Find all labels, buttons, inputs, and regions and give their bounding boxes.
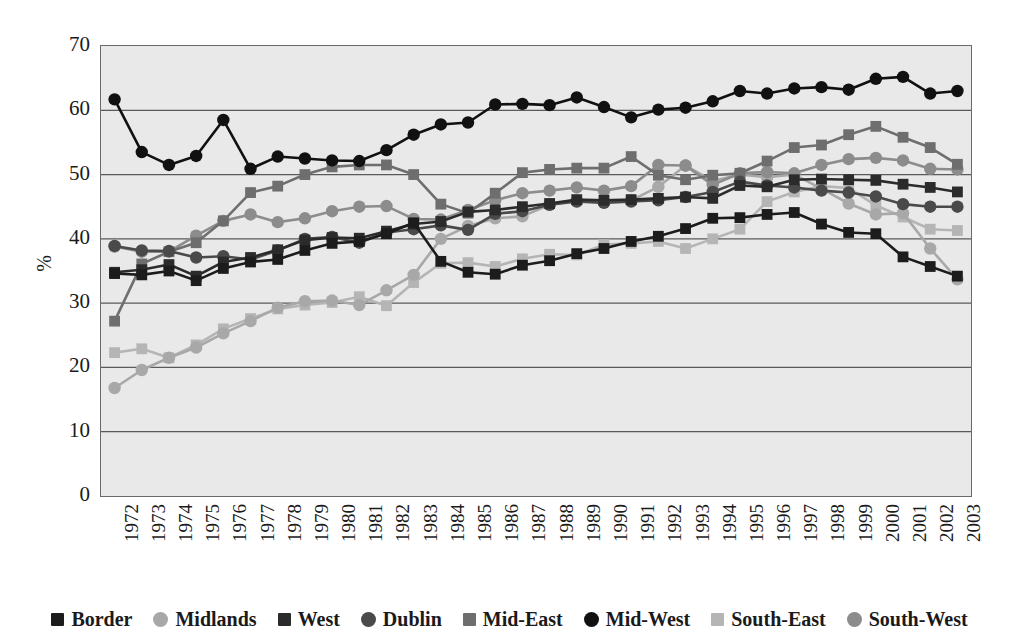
- data-point: [326, 154, 338, 166]
- plot-area: [100, 45, 972, 497]
- data-point: [244, 163, 256, 175]
- data-point: [951, 201, 963, 213]
- data-point: [108, 382, 120, 394]
- x-tick-label: 1995: [747, 504, 766, 542]
- data-point: [463, 267, 474, 278]
- legend-square-icon: [711, 613, 724, 626]
- data-point: [815, 159, 827, 171]
- data-point: [652, 159, 664, 171]
- legend-item-south-west[interactable]: South-West: [847, 609, 968, 629]
- data-point: [407, 269, 419, 281]
- data-point: [843, 174, 854, 185]
- data-point: [679, 159, 691, 171]
- data-point: [327, 238, 338, 249]
- data-point: [136, 343, 147, 354]
- legend-label: Mid-East: [483, 609, 563, 629]
- series-border: [109, 207, 963, 286]
- data-point: [543, 184, 555, 196]
- data-point: [571, 194, 582, 205]
- data-point: [898, 132, 909, 143]
- data-point: [870, 175, 881, 186]
- data-point: [272, 150, 284, 162]
- data-point: [190, 251, 202, 263]
- y-tick-label: 20: [44, 355, 90, 376]
- series-line: [115, 213, 958, 281]
- y-tick-label: 60: [44, 98, 90, 119]
- data-point: [599, 163, 610, 174]
- data-point: [435, 216, 446, 227]
- legend-square-icon: [463, 613, 476, 626]
- series-line: [115, 77, 958, 169]
- data-point: [516, 187, 528, 199]
- data-point: [218, 215, 229, 226]
- data-point: [299, 152, 311, 164]
- chart-legend: BorderMidlandsWestDublinMid-EastMid-West…: [0, 603, 1019, 635]
- data-point: [490, 269, 501, 280]
- data-point: [924, 201, 936, 213]
- x-tick-label: 2001: [910, 504, 929, 542]
- data-point: [815, 81, 827, 93]
- data-point: [245, 187, 256, 198]
- data-point: [544, 255, 555, 266]
- data-point: [408, 217, 419, 228]
- data-point: [952, 225, 963, 236]
- data-point: [380, 200, 392, 212]
- data-point: [679, 102, 691, 114]
- data-point: [816, 219, 827, 230]
- data-point: [191, 275, 202, 286]
- data-point: [517, 167, 528, 178]
- series-midlands: [108, 159, 963, 394]
- data-point: [462, 116, 474, 128]
- data-point: [653, 193, 664, 204]
- data-point: [898, 179, 909, 190]
- data-point: [163, 245, 175, 257]
- data-point: [217, 114, 229, 126]
- data-point: [354, 236, 365, 247]
- data-point: [843, 227, 854, 238]
- legend-item-midlands[interactable]: Midlands: [153, 609, 256, 629]
- data-point: [625, 111, 637, 123]
- data-point: [217, 327, 229, 339]
- data-point: [272, 244, 283, 255]
- data-point: [490, 205, 501, 216]
- data-point: [381, 228, 392, 239]
- x-tick-label: 1973: [149, 504, 168, 542]
- data-point: [108, 240, 120, 252]
- data-point: [190, 150, 202, 162]
- data-point: [761, 166, 773, 178]
- legend-circle-icon: [584, 612, 599, 627]
- data-point: [626, 236, 637, 247]
- data-point: [652, 103, 664, 115]
- legend-item-border[interactable]: Border: [51, 609, 132, 629]
- legend-item-mid-east[interactable]: Mid-East: [463, 609, 563, 629]
- data-point: [626, 194, 637, 205]
- legend-item-south-east[interactable]: South-East: [711, 609, 825, 629]
- data-point: [381, 300, 392, 311]
- x-tick-label: 1979: [312, 504, 331, 542]
- data-point: [380, 144, 392, 156]
- data-point: [299, 295, 311, 307]
- data-point: [897, 154, 909, 166]
- data-point: [842, 153, 854, 165]
- data-point: [762, 181, 773, 192]
- data-point: [734, 85, 746, 97]
- data-point: [952, 271, 963, 282]
- data-point: [707, 233, 718, 244]
- data-point: [163, 159, 175, 171]
- x-tick-label: 1986: [502, 504, 521, 542]
- data-point: [653, 231, 664, 242]
- x-tick-label: 1996: [774, 504, 793, 542]
- data-point: [300, 235, 311, 246]
- data-point: [680, 174, 691, 185]
- data-point: [680, 223, 691, 234]
- data-point: [407, 129, 419, 141]
- legend-item-mid-west[interactable]: Mid-West: [584, 609, 690, 629]
- data-point: [924, 163, 936, 175]
- legend-item-dublin[interactable]: Dublin: [361, 609, 442, 629]
- legend-item-west[interactable]: West: [278, 609, 340, 629]
- data-point: [789, 207, 800, 218]
- legend-label: South-East: [731, 609, 825, 629]
- data-point: [272, 301, 284, 313]
- data-point: [517, 260, 528, 271]
- data-point: [735, 224, 746, 235]
